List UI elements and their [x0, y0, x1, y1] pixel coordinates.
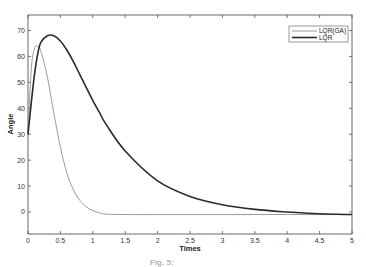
- x-tick-label: 5: [350, 237, 354, 244]
- x-tick-label: 2: [156, 237, 160, 244]
- x-tick-label: 1: [91, 237, 95, 244]
- x-tick-label: 1.5: [120, 237, 130, 244]
- y-tick-label: 20: [17, 157, 25, 164]
- x-tick-label: 4: [285, 237, 289, 244]
- x-axis: 00.511.522.533.544.55: [26, 15, 354, 244]
- y-tick-label: 70: [17, 27, 25, 34]
- plot-area: [28, 15, 352, 234]
- plot-border: [28, 15, 352, 234]
- series-lqr-ga: [28, 46, 352, 215]
- x-tick-label: 3: [220, 237, 224, 244]
- legend-label: LQR: [319, 34, 333, 42]
- y-tick-label: 50: [17, 79, 25, 86]
- series-lqr: [28, 35, 352, 215]
- y-tick-label: 30: [17, 131, 25, 138]
- y-tick-label: 10: [17, 183, 25, 190]
- series-layer: [28, 35, 352, 215]
- x-tick-label: 2.5: [185, 237, 195, 244]
- figure-caption: Fig. 5:: [150, 258, 174, 267]
- line-chart: 010203040506070 00.511.522.533.544.55 An…: [0, 0, 366, 267]
- y-tick-label: 60: [17, 53, 25, 60]
- x-tick-label: 0.5: [56, 237, 66, 244]
- x-tick-label: 0: [26, 237, 30, 244]
- x-tick-label: 3.5: [250, 237, 260, 244]
- y-tick-label: 40: [17, 105, 25, 112]
- y-tick-label: 0: [21, 208, 25, 215]
- y-axis-label: Angle: [6, 114, 15, 135]
- x-axis-label: Times: [179, 244, 201, 253]
- x-tick-label: 4.5: [315, 237, 325, 244]
- y-axis: 010203040506070: [17, 27, 352, 215]
- legend: LQR(GA)LQR: [289, 26, 348, 42]
